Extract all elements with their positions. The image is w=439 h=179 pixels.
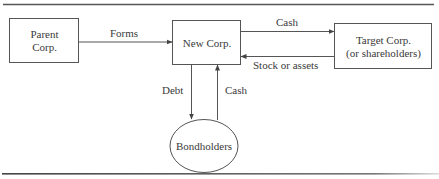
parent-corp-line2: Corp. bbox=[32, 41, 57, 54]
new-corp-label: New Corp. bbox=[173, 21, 241, 65]
cash-from-bondholders-label: Cash bbox=[225, 84, 247, 97]
bondholders-text: Bondholders bbox=[176, 140, 232, 153]
new-corp-text: New Corp. bbox=[183, 37, 231, 50]
debt-label: Debt bbox=[162, 84, 183, 97]
cash-to-target-label: Cash bbox=[276, 16, 298, 29]
stock-or-assets-label: Stock or assets bbox=[253, 59, 318, 72]
forms-label: Forms bbox=[110, 27, 138, 40]
parent-corp-line1: Parent bbox=[30, 28, 58, 41]
parent-corp-label: Parent Corp. bbox=[10, 19, 79, 63]
target-corp-line1: Target Corp. bbox=[356, 34, 411, 47]
target-corp-label: Target Corp. (or shareholders) bbox=[335, 24, 432, 69]
target-corp-line2: (or shareholders) bbox=[346, 47, 421, 60]
bottom-rule bbox=[2, 173, 439, 175]
bondholders-label: Bondholders bbox=[170, 139, 238, 153]
